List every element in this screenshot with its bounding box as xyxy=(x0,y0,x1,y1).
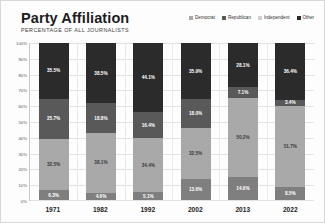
bar-segment[interactable]: 35.5% xyxy=(39,43,69,99)
x-axis-tick-label: 2022 xyxy=(275,206,305,214)
bar-segment-label: 4.6% xyxy=(96,194,107,199)
bar-segment[interactable]: 4.6% xyxy=(86,193,116,200)
bar-segment[interactable]: 32.5% xyxy=(39,139,69,190)
bar-segment-label: 35.5% xyxy=(47,68,60,73)
bar-segment-label: 7.1% xyxy=(238,90,249,95)
bar-segment-label: 5.1% xyxy=(143,194,154,199)
bar-segment[interactable]: 44.1% xyxy=(133,43,163,112)
stacked-bar[interactable]: 35.9%18.0%32.5%13.6% xyxy=(181,43,211,200)
stacked-bar[interactable]: 44.1%16.4%34.4%5.1% xyxy=(133,43,163,200)
bar-segment-label: 6.3% xyxy=(48,193,59,198)
bar-segment[interactable]: 35.9% xyxy=(181,43,211,99)
legend-item: Independent xyxy=(258,15,290,20)
chart-subtitle: PERCENTAGE OF ALL JOURNALISTS xyxy=(21,27,316,34)
bar-segment-label: 38.1% xyxy=(94,160,107,165)
bar-segment[interactable]: 32.5% xyxy=(181,128,211,179)
y-axis-tick-label: 30% xyxy=(18,151,27,156)
x-axis-tick-label: 1982 xyxy=(85,206,115,214)
bar-segment[interactable]: 6.3% xyxy=(39,190,69,200)
stacked-bar[interactable]: 36.4%3.4%51.7%8.5% xyxy=(275,43,305,200)
x-axis-tick-label: 2013 xyxy=(228,206,258,214)
legend-swatch-icon xyxy=(189,16,193,20)
legend-item: Other xyxy=(297,15,315,20)
legend-swatch-icon xyxy=(258,16,262,20)
bar-group: 35.5%25.7%32.5%6.3%38.5%18.8%38.1%4.6%44… xyxy=(30,43,314,200)
y-axis-tick-label: 10% xyxy=(18,183,27,188)
y-axis: 0%10%20%30%40%50%60%70%80%90%100% xyxy=(9,43,29,201)
bar-segment[interactable]: 51.7% xyxy=(275,106,305,187)
legend-label: Independent xyxy=(264,15,290,20)
x-axis: 197119821992200220132022 xyxy=(29,201,314,219)
plot-area: 35.5%25.7%32.5%6.3%38.5%18.8%38.1%4.6%44… xyxy=(29,43,314,201)
bar-segment-label: 36.4% xyxy=(284,69,297,74)
bar-segment[interactable]: 34.4% xyxy=(133,138,163,192)
bar-segment-label: 18.0% xyxy=(189,111,202,116)
legend-swatch-icon xyxy=(297,16,301,20)
bar-segment[interactable]: 28.1% xyxy=(228,43,258,87)
chart-legend: DemocratRepublicanIndependentOther xyxy=(189,15,314,20)
y-axis-tick-label: 80% xyxy=(18,72,27,77)
bar-segment[interactable]: 5.1% xyxy=(133,192,163,200)
bar-segment[interactable]: 38.5% xyxy=(86,43,116,103)
bar-segment[interactable]: 50.2% xyxy=(228,98,258,177)
bar-segment-label: 16.4% xyxy=(142,123,155,128)
bar-segment[interactable]: 16.4% xyxy=(133,112,163,138)
x-axis-tick-label: 1992 xyxy=(133,206,163,214)
bar-segment-label: 13.6% xyxy=(189,187,202,192)
stacked-bar[interactable]: 28.1%7.1%50.2%14.6% xyxy=(228,43,258,200)
bar-segment-label: 32.5% xyxy=(189,151,202,156)
bar-segment[interactable]: 13.6% xyxy=(181,179,211,200)
bar-segment[interactable]: 38.1% xyxy=(86,133,116,193)
bar-segment[interactable]: 8.5% xyxy=(275,187,305,200)
y-axis-tick-label: 100% xyxy=(16,41,27,46)
bar-segment-label: 14.6% xyxy=(236,186,249,191)
x-axis-tick-label: 1971 xyxy=(38,206,68,214)
stacked-bar[interactable]: 38.5%18.8%38.1%4.6% xyxy=(86,43,116,200)
y-axis-tick-label: 70% xyxy=(18,88,27,93)
bar-segment[interactable]: 36.4% xyxy=(275,43,305,100)
y-axis-tick-label: 20% xyxy=(18,167,27,172)
plot-wrapper: 0%10%20%30%40%50%60%70%80%90%100% 35.5%2… xyxy=(9,43,316,201)
y-axis-tick-label: 90% xyxy=(18,56,27,61)
bar-segment-label: 34.4% xyxy=(142,163,155,168)
legend-label: Other xyxy=(303,15,315,20)
bar-segment-label: 38.5% xyxy=(94,71,107,76)
bar-segment[interactable]: 14.6% xyxy=(228,177,258,200)
y-axis-tick-label: 50% xyxy=(18,120,27,125)
bar-segment-label: 44.1% xyxy=(142,75,155,80)
y-axis-tick-label: 60% xyxy=(18,104,27,109)
legend-label: Democrat xyxy=(195,15,215,20)
bar-segment-label: 51.7% xyxy=(284,144,297,149)
y-axis-tick-label: 40% xyxy=(18,135,27,140)
stacked-bar[interactable]: 35.5%25.7%32.5%6.3% xyxy=(39,43,69,200)
bar-segment-label: 35.9% xyxy=(189,69,202,74)
bar-segment-label: 25.7% xyxy=(47,116,60,121)
bar-segment[interactable]: 7.1% xyxy=(228,87,258,98)
bar-segment-label: 18.8% xyxy=(94,116,107,121)
legend-swatch-icon xyxy=(222,16,226,20)
legend-label: Republican xyxy=(228,15,251,20)
bar-segment[interactable]: 25.7% xyxy=(39,99,69,139)
bar-segment-label: 28.1% xyxy=(236,63,249,68)
bar-segment[interactable]: 18.8% xyxy=(86,103,116,133)
chart-card: Party Affiliation PERCENTAGE OF ALL JOUR… xyxy=(0,0,325,223)
bar-segment-label: 50.2% xyxy=(236,135,249,140)
y-axis-tick-label: 0% xyxy=(21,199,27,204)
chart-header: Party Affiliation PERCENTAGE OF ALL JOUR… xyxy=(9,11,316,41)
bar-segment-label: 32.5% xyxy=(47,162,60,167)
legend-item: Democrat xyxy=(189,15,215,20)
legend-item: Republican xyxy=(222,15,251,20)
bar-segment-label: 8.5% xyxy=(285,191,296,196)
bar-segment[interactable]: 18.0% xyxy=(181,99,211,127)
x-axis-tick-label: 2002 xyxy=(180,206,210,214)
